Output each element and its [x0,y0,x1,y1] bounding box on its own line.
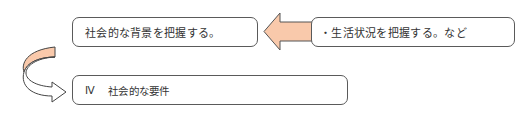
background-box-text: 社会的な背景を把握する。 [85,24,221,40]
requirement-box-text: 社会的な要件 [108,83,170,98]
requirement-number: Ⅳ [85,84,95,96]
curved-arrow-icon [23,47,66,102]
requirement-box: Ⅳ 社会的な要件 [72,75,348,105]
background-box: 社会的な背景を把握する。 [72,17,258,47]
left-arrow-icon [264,13,313,50]
example-box: ・生活状況を把握する。など [311,17,515,47]
example-box-text: ・生活状況を把握する。など [320,24,467,40]
